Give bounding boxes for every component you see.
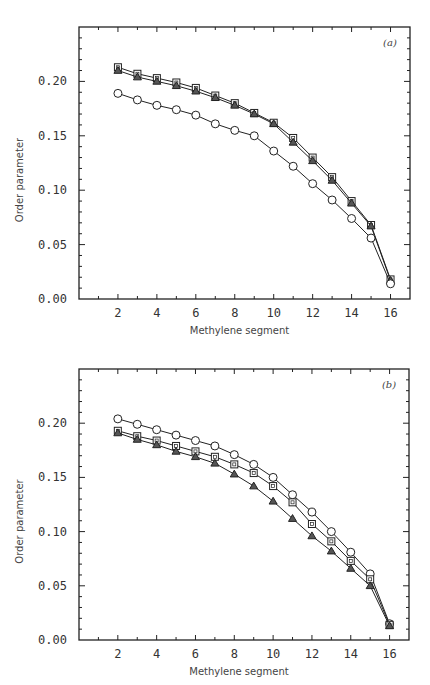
circle-marker [153,426,161,434]
x-tick-label: 4 [153,647,160,661]
circle-marker [211,120,219,128]
plot-frame [79,369,409,640]
x-tick-label: 14 [344,306,358,320]
circle-marker [367,234,375,242]
circle-marker [192,111,200,119]
circle-marker [114,415,122,423]
x-tick-label: 10 [266,647,280,661]
circle-marker [269,473,277,481]
circle-marker [327,528,335,536]
circle-marker [328,196,336,204]
circle-marker [289,162,297,170]
x-tick-label: 12 [305,647,319,661]
triangle-marker [250,482,258,489]
circle-marker [309,180,317,188]
x-tick-label: 2 [114,647,121,661]
x-tick-label: 8 [231,306,238,320]
circle-marker [133,420,141,428]
circle-marker [270,147,278,155]
x-tick-label: 6 [192,306,199,320]
series-line [118,419,390,624]
y-tick-label: 0.15 [38,470,67,484]
triangle-marker [230,470,238,477]
square-marker [250,470,257,477]
x-tick-label: 12 [305,306,319,320]
chart-panel-a: 2468101214160.000.050.100.150.20Methylen… [0,0,430,340]
triangle-marker [327,547,335,554]
chart-panel-b: 2468101214160.000.050.100.150.20Methylen… [0,340,430,685]
series-triangles [114,429,394,629]
series-line [118,93,391,283]
x-tick-label: 8 [231,647,238,661]
circle-marker [153,101,161,109]
circle-marker [308,508,316,516]
circle-marker [211,442,219,450]
series-line [118,67,391,279]
circle-marker [348,214,356,222]
circle-marker [250,132,258,140]
x-tick-label: 16 [383,306,397,320]
y-tick-label: 0.00 [38,292,67,306]
y-tick-label: 0.10 [38,525,67,539]
circle-marker [250,460,258,468]
y-tick-label: 0.15 [38,129,67,143]
y-tick-label: 0.00 [38,633,67,647]
y-tick-label: 0.10 [38,183,67,197]
x-tick-label: 10 [266,306,280,320]
y-axis-label: Order parameter [14,478,25,563]
x-axis-label: Methylene segment [190,325,289,336]
y-tick-label: 0.20 [38,416,67,430]
circle-marker [387,280,395,288]
square-marker [270,483,277,490]
series-squares [114,64,394,283]
square-marker [289,499,296,506]
x-tick-label: 6 [192,647,199,661]
y-tick-label: 0.05 [38,238,67,252]
plot-frame [79,27,410,299]
y-tick-label: 0.20 [38,74,67,88]
triangle-marker [269,497,277,504]
y-tick-label: 0.05 [38,579,67,593]
chart-a-svg: 2468101214160.000.050.100.150.20Methylen… [0,0,430,340]
y-axis-label: Order parameter [14,137,25,222]
x-tick-label: 14 [344,647,358,661]
x-tick-label: 2 [114,306,121,320]
chart-b-svg: 2468101214160.000.050.100.150.20Methylen… [0,340,430,685]
circle-marker [191,437,199,445]
x-axis-label: Methylene segment [189,666,288,677]
x-tick-label: 16 [382,647,396,661]
square-marker [308,521,315,528]
circle-marker [231,126,239,134]
series-circles [114,89,395,287]
circle-marker [289,491,297,499]
series-squares [114,427,393,628]
square-marker [347,557,354,564]
circle-marker [172,431,180,439]
panel-label: (b) [382,379,396,390]
panel-label: (a) [383,37,397,48]
circle-marker [230,451,238,459]
square-marker [231,461,238,468]
square-marker [328,538,335,545]
series-triangles [114,67,395,284]
circle-marker [114,89,122,97]
x-tick-label: 4 [153,306,160,320]
circle-marker [133,96,141,104]
circle-marker [347,548,355,556]
circle-marker [172,106,180,114]
